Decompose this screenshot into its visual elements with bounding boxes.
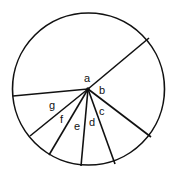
center-point — [86, 87, 90, 91]
label-d: d — [89, 116, 95, 128]
sector-diagram: a b c d e f g — [0, 0, 176, 179]
radius-left — [13, 89, 88, 96]
label-f: f — [60, 113, 64, 125]
label-a: a — [84, 72, 91, 84]
label-c: c — [99, 105, 105, 117]
label-b: b — [99, 84, 105, 96]
radius-upper-right — [88, 38, 149, 89]
label-g: g — [49, 99, 55, 111]
label-e: e — [74, 120, 80, 132]
radii — [13, 38, 151, 166]
